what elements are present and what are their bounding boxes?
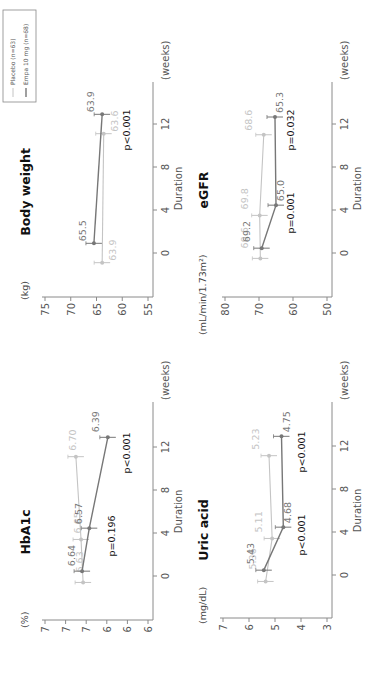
data-point — [281, 525, 285, 529]
p-value-label: p<0.001 — [121, 432, 132, 473]
value-label: 69.8 — [239, 188, 250, 209]
y-tick-label: 7 — [40, 626, 51, 632]
value-label: 5.23 — [250, 429, 261, 450]
series-line — [264, 436, 284, 570]
value-label: 6.57 — [73, 503, 84, 524]
y-unit-label: (kg) — [19, 281, 30, 300]
y-tick-label: 5 — [270, 624, 281, 630]
x-tick-label: 0 — [160, 250, 171, 256]
chart-figure: Placebo (n=63)Empa 10 mg (n=68) Body wei… — [0, 0, 374, 684]
data-point — [81, 580, 85, 584]
panel-body-weight: Body weight(kg)757065605504812Duration(w… — [18, 41, 184, 316]
legend-label: Placebo (n=63) — [9, 39, 16, 86]
data-point — [74, 455, 78, 459]
value-label: 6.64 — [66, 545, 77, 566]
y-tick-label: 4 — [296, 624, 307, 630]
data-point — [100, 261, 104, 265]
value-label: 69.2 — [241, 221, 252, 242]
series-line — [260, 135, 264, 259]
data-point — [274, 203, 278, 207]
p-value-label: p<0.001 — [296, 514, 307, 555]
y-tick-label: 70 — [254, 303, 265, 316]
legend-box — [3, 10, 36, 102]
y-tick-label: 75 — [40, 303, 51, 316]
y-tick-label: 7 — [61, 626, 72, 632]
y-tick-label: 55 — [143, 303, 154, 316]
y-tick-label: 7 — [81, 626, 92, 632]
data-point — [270, 536, 274, 540]
figure-rotated: Placebo (n=63)Empa 10 mg (n=68) Body wei… — [0, 0, 374, 684]
x-tick-label: 0 — [339, 572, 350, 578]
data-point — [100, 112, 104, 116]
x-tick-label: 8 — [160, 487, 171, 493]
data-point — [258, 256, 262, 260]
x-tick-label: 0 — [339, 250, 350, 256]
x-tick-label: 0 — [160, 573, 171, 579]
data-point — [92, 241, 96, 245]
x-axis-title: Duration — [352, 489, 363, 532]
x-tick-label: 12 — [339, 118, 350, 131]
value-label: 63.9 — [85, 91, 96, 112]
y-tick-label: 6 — [122, 626, 133, 632]
y-tick-label: 65 — [92, 303, 103, 316]
y-tick-label: 6 — [244, 624, 255, 630]
x-axis-title: Duration — [173, 490, 184, 533]
value-label: 5.11 — [253, 511, 264, 532]
value-label: 4.75 — [281, 411, 292, 432]
x-tick-label: 12 — [339, 440, 350, 453]
data-point — [262, 133, 266, 137]
x-axis-title: Duration — [352, 167, 363, 210]
data-point — [267, 454, 271, 458]
data-point — [80, 569, 84, 573]
x-tick-label: 8 — [160, 164, 171, 170]
x-unit-label: (weeks) — [339, 361, 350, 400]
y-tick-label: 7 — [218, 624, 229, 630]
y-tick-label: 80 — [220, 303, 231, 316]
y-unit-label: (%) — [19, 612, 30, 628]
data-point — [264, 579, 268, 583]
x-tick-label: 8 — [339, 164, 350, 170]
data-point — [79, 537, 83, 541]
value-label: 63.6 — [109, 111, 120, 132]
x-tick-label: 4 — [339, 207, 350, 213]
chart-title: eGFR — [196, 171, 211, 208]
data-point — [273, 115, 277, 119]
value-label: 65.3 — [274, 92, 285, 113]
y-unit-label: (mL/min/1.73m²) — [197, 255, 208, 336]
chart-title: HbA1c — [18, 509, 33, 554]
legend: Placebo (n=63)Empa 10 mg (n=68) — [3, 10, 36, 102]
value-label: 68.6 — [243, 110, 254, 131]
y-tick-label: 60 — [117, 303, 128, 316]
value-label: 65.5 — [77, 220, 88, 241]
x-tick-label: 12 — [160, 118, 171, 131]
chart-title: Body weight — [18, 148, 33, 236]
x-tick-label: 4 — [160, 530, 171, 536]
panel-uric-acid: Uric acid(mg/dL)7654304812Duration(weeks… — [196, 361, 363, 631]
x-tick-label: 12 — [160, 441, 171, 454]
value-label: 5.43 — [245, 543, 256, 564]
y-tick-label: 70 — [66, 303, 77, 316]
x-axis-title: Duration — [173, 167, 184, 210]
panel-egfr: eGFR(mL/min/1.73m²)8070605004812Duration… — [196, 41, 363, 335]
data-point — [102, 132, 106, 136]
x-unit-label: (weeks) — [160, 41, 171, 80]
series-line — [102, 134, 104, 263]
x-tick-label: 4 — [339, 529, 350, 535]
data-point — [260, 246, 264, 250]
x-unit-label: (weeks) — [160, 361, 171, 400]
value-label: 4.68 — [282, 502, 293, 523]
y-tick-label: 50 — [322, 303, 333, 316]
p-value-label: p<0.001 — [296, 431, 307, 472]
charts-grid: Body weight(kg)757065605504812Duration(w… — [18, 41, 363, 633]
y-tick-label: 3 — [322, 624, 333, 630]
p-value-label: p=0.196 — [106, 515, 117, 556]
y-tick-label: 6 — [143, 626, 154, 632]
value-label: 6.39 — [90, 411, 101, 432]
legend-label: Empa 10 mg (n=68) — [22, 24, 30, 85]
data-point — [280, 434, 284, 438]
x-tick-label: 8 — [339, 486, 350, 492]
p-value-label: p<0.001 — [121, 109, 132, 150]
p-value-label: p=0.001 — [285, 192, 296, 233]
series-empa: 65.563.9 — [77, 91, 110, 245]
p-value-label: p=0.032 — [285, 109, 296, 150]
